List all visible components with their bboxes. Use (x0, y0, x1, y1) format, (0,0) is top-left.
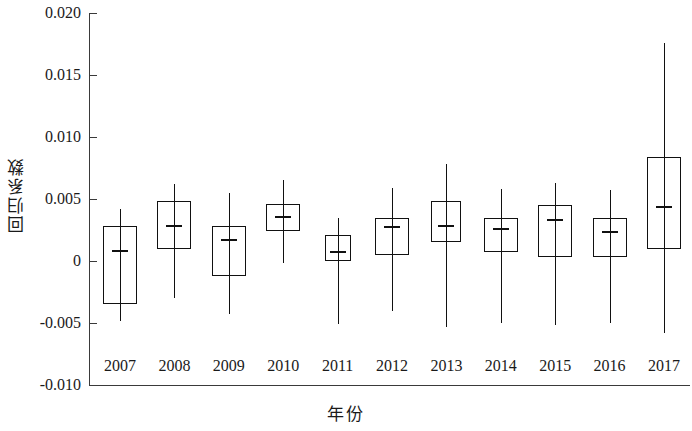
box-plot-chart: 回归系数 年份 0.0200.0150.0100.0050-0.005-0.01… (0, 0, 692, 431)
y-axis-tick-mark (90, 261, 97, 262)
y-axis-tick-mark (90, 75, 97, 76)
box-quartile-rect (484, 218, 518, 253)
x-axis-title: 年份 (0, 400, 692, 425)
box-whisker-line (338, 218, 339, 325)
x-axis-tick-label: 2008 (144, 358, 204, 374)
box-median-marker (602, 231, 618, 233)
x-axis-line (89, 385, 690, 386)
x-axis-tick-label: 2014 (471, 358, 531, 374)
x-axis-tick-label: 2013 (416, 358, 476, 374)
box-quartile-rect (593, 218, 627, 258)
x-axis-tick-label: 2009 (199, 358, 259, 374)
box-quartile-rect (212, 226, 246, 276)
x-axis-tick-label: 2011 (308, 358, 368, 374)
y-axis-tick-mark (90, 137, 97, 138)
y-axis-tick-label: 0.005 (17, 191, 81, 207)
box-whisker-line (501, 189, 502, 323)
box-median-marker (493, 228, 509, 230)
box-quartile-rect (647, 157, 681, 249)
box-median-marker (112, 250, 128, 252)
y-axis-tick-label: 0 (17, 253, 81, 269)
x-axis-tick-label: 2012 (362, 358, 422, 374)
y-axis-tick-label: 0.010 (17, 129, 81, 145)
y-axis-tick-mark (90, 199, 97, 200)
y-axis-tick-mark (90, 323, 97, 324)
box-quartile-rect (538, 205, 572, 257)
box-median-marker (656, 206, 672, 208)
y-axis-tick-label: -0.005 (17, 315, 81, 331)
box-median-marker (384, 226, 400, 228)
box-median-marker (275, 216, 291, 218)
x-axis-tick-label: 2016 (580, 358, 640, 374)
x-axis-tick-label: 2007 (90, 358, 150, 374)
x-axis-tick-label: 2015 (525, 358, 585, 374)
box-median-marker (166, 225, 182, 227)
box-quartile-rect (431, 201, 461, 242)
box-whisker-line (446, 164, 447, 326)
y-axis-tick-label: 0.015 (17, 67, 81, 83)
y-axis-tick-label: 0.020 (17, 5, 81, 21)
x-axis-tick-label: 2010 (253, 358, 313, 374)
box-quartile-rect (375, 218, 409, 255)
x-axis-tick-label: 2017 (634, 358, 692, 374)
box-median-marker (438, 225, 454, 227)
box-median-marker (330, 251, 346, 253)
y-axis-tick-mark (90, 385, 97, 386)
box-quartile-rect (325, 235, 351, 261)
y-axis-tick-mark (90, 13, 97, 14)
y-axis-tick-label: -0.010 (17, 377, 81, 393)
box-quartile-rect (103, 226, 137, 304)
box-median-marker (221, 239, 237, 241)
box-median-marker (547, 219, 563, 221)
